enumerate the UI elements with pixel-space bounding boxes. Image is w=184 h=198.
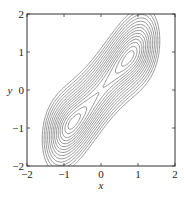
x-tick-label: −1 bbox=[58, 168, 70, 180]
y-tick-label: 1 bbox=[19, 46, 25, 58]
x-tick-label: 2 bbox=[172, 168, 178, 180]
plot-frame bbox=[27, 14, 175, 166]
contour-chart: −2−1012−2−1012 x y bbox=[0, 0, 184, 198]
y-tick-label: −2 bbox=[12, 160, 24, 172]
x-axis-label: x bbox=[98, 179, 104, 191]
y-tick-label: −1 bbox=[12, 122, 24, 134]
contour-line bbox=[62, 43, 139, 138]
y-tick-label: 0 bbox=[19, 84, 25, 96]
axis-ticks bbox=[27, 14, 175, 166]
y-tick-label: 2 bbox=[19, 8, 25, 20]
contour-line bbox=[56, 33, 145, 146]
x-tick-label: 1 bbox=[135, 168, 141, 180]
contour-line bbox=[42, 14, 160, 166]
y-axis-label: y bbox=[7, 84, 13, 96]
contour-line bbox=[51, 24, 151, 155]
tick-labels: −2−1012−2−1012 bbox=[12, 8, 177, 180]
contour-lines bbox=[42, 14, 160, 166]
